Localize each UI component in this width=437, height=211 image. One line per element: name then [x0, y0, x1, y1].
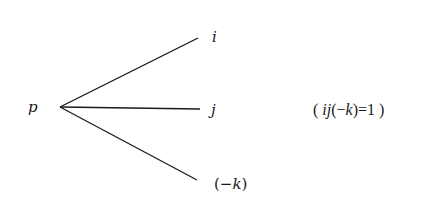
- paren-close: ): [242, 175, 248, 193]
- equation: ( ij(−k)=1 ): [313, 102, 384, 118]
- branch-label-i: i: [212, 30, 217, 45]
- branch-label-j: j: [211, 103, 216, 118]
- branch-label-minus-k: (−k): [214, 177, 247, 192]
- eq-equals-one: =1: [358, 101, 375, 118]
- branch-line-minus-k: [60, 107, 197, 180]
- paren-minus: (−: [214, 175, 232, 193]
- eq-paren-minus: (−: [331, 101, 345, 118]
- root-label-p: p: [28, 100, 38, 115]
- tree-diagram: p i j (−k) ( ij(−k)=1 ): [0, 0, 437, 211]
- eq-close-paren: ): [375, 101, 384, 118]
- eq-k: k: [346, 101, 353, 118]
- k-var: k: [232, 175, 241, 193]
- branch-line-j: [60, 107, 200, 109]
- eq-open-paren: (: [313, 101, 322, 118]
- branch-line-i: [60, 38, 198, 107]
